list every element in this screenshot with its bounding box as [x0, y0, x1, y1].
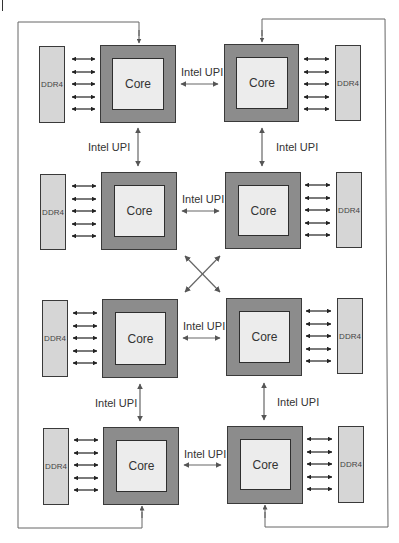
upi-topology-diagram: DDR4 Core Core DDR4 Intel UPI Intel UPI … [0, 0, 399, 543]
ddr4-memory-s4: DDR4 [336, 172, 362, 248]
ddr4-memory-s5: DDR4 [42, 300, 68, 377]
socket-s4: Core [225, 172, 301, 249]
socket-s8: Core [227, 426, 303, 504]
ddr4-memory-s1: DDR4 [39, 46, 65, 123]
ddr4-label: DDR4 [337, 79, 359, 88]
ddr4-label: DDR4 [45, 462, 67, 471]
core-label: Core [252, 458, 278, 472]
ddr4-label: DDR4 [41, 80, 63, 89]
ddr4-memory-s7: DDR4 [43, 428, 69, 505]
upi-label-v1: Intel UPI [88, 141, 130, 153]
memory-channels-right [304, 59, 332, 489]
core-label: Core [125, 77, 151, 91]
core-s6: Core [239, 311, 290, 363]
socket-s6: Core [226, 298, 302, 376]
upi-label-h2: Intel UPI [182, 193, 224, 205]
ddr4-memory-s2: DDR4 [335, 45, 361, 121]
ddr4-label: DDR4 [44, 334, 66, 343]
socket-s5: Core [102, 299, 178, 378]
upi-label-h3: Intel UPI [183, 320, 225, 332]
core-label: Core [126, 204, 152, 218]
socket-s3: Core [101, 172, 177, 250]
ddr4-memory-s3: DDR4 [40, 174, 66, 250]
core-s5: Core [115, 312, 166, 365]
ddr4-label: DDR4 [340, 460, 362, 469]
upi-label-v2: Intel UPI [276, 141, 318, 153]
upi-label-v3: Intel UPI [95, 397, 137, 409]
core-label: Core [128, 459, 154, 473]
ddr4-label: DDR4 [42, 208, 64, 217]
core-s4: Core [238, 185, 289, 236]
core-s3: Core [114, 185, 165, 237]
upi-label-h1: Intel UPI [181, 66, 223, 78]
memory-channels-left [72, 59, 98, 490]
socket-s1: Core [100, 45, 176, 123]
socket-s2: Core [224, 44, 299, 122]
upi-label-v4: Intel UPI [277, 396, 319, 408]
core-s2: Core [236, 57, 288, 109]
socket-s7: Core [103, 427, 179, 505]
core-label: Core [249, 76, 275, 90]
core-label: Core [251, 330, 277, 344]
core-label: Core [127, 332, 153, 346]
ddr4-label: DDR4 [338, 206, 360, 215]
core-s7: Core [116, 440, 167, 492]
core-label: Core [250, 204, 276, 218]
ddr4-memory-s8: DDR4 [338, 426, 364, 503]
ddr4-memory-s6: DDR4 [337, 298, 363, 374]
upi-label-h4: Intel UPI [184, 448, 226, 460]
ddr4-label: DDR4 [339, 332, 361, 341]
core-s8: Core [240, 439, 291, 490]
core-s1: Core [112, 58, 164, 110]
